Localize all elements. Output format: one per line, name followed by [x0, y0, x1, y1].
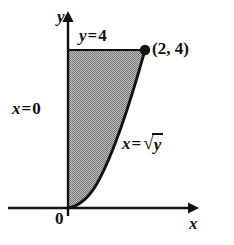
- radical-expression: √y: [142, 133, 161, 152]
- label-curve-lhs: x: [122, 134, 131, 153]
- label-y-equals-4: y=4: [79, 27, 107, 44]
- origin-label: 0: [55, 210, 64, 227]
- shaded-region: [68, 50, 145, 208]
- label-x-equals-0-operator: =: [21, 99, 33, 118]
- label-x-equals-0-rhs: 0: [32, 99, 41, 118]
- radical-sign-icon: √: [143, 132, 153, 153]
- label-y-equals-4-operator: =: [87, 26, 99, 45]
- label-x-equals-sqrt-y: x=√y: [122, 133, 161, 152]
- label-point-2-4: (2, 4): [152, 40, 189, 57]
- vinculum-overbar: [152, 133, 163, 135]
- y-axis-label: y: [57, 8, 65, 25]
- label-x-equals-0: x=0: [12, 100, 41, 117]
- radicand: y: [154, 135, 162, 154]
- label-y-equals-4-lhs: y: [79, 26, 87, 45]
- figure-region-bounded-by-sqrt-y: y y=4 (2, 4) x=0 x=√y 0 x: [0, 0, 234, 245]
- label-x-equals-0-lhs: x: [12, 99, 21, 118]
- plot-canvas: [0, 0, 234, 245]
- x-axis-label: x: [189, 215, 198, 232]
- x-axis-arrowhead: [188, 202, 199, 213]
- point-marker-2-4: [140, 45, 150, 55]
- label-curve-operator: =: [131, 134, 143, 153]
- label-y-equals-4-rhs: 4: [98, 26, 107, 45]
